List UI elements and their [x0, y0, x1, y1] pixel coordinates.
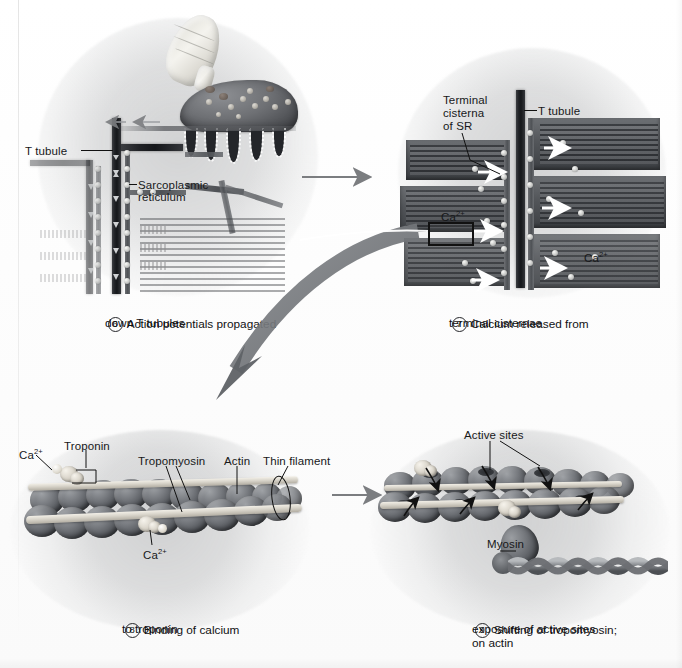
- label-calcium-left: Ca2+: [441, 209, 465, 224]
- label-active-sites: Active sites: [464, 428, 524, 442]
- caption-panel-7-line2: terminal cisternae: [449, 316, 542, 331]
- calcium-ion: [462, 260, 468, 266]
- page-edge-bottom: [0, 658, 682, 668]
- sarcoplasmic-reticulum-tube: [125, 152, 130, 294]
- junctional-fold: [274, 130, 284, 156]
- label-terminal-cisterna-line2: cisterna: [443, 106, 484, 120]
- sr-vesicle: [95, 230, 101, 236]
- calcium-ion: [527, 156, 533, 162]
- label-calcium-right: Ca2+: [584, 250, 608, 265]
- calcium-ion: [501, 198, 507, 204]
- caption-panel-6-line2: down T tubules: [105, 316, 185, 331]
- calcium-ion: [490, 240, 496, 246]
- synaptic-vesicle: [272, 104, 278, 110]
- sr-column-left: [504, 140, 510, 290]
- calcium-ion: [478, 186, 484, 192]
- thin-filament-zigzag: [140, 244, 166, 252]
- calcium-ion: [501, 174, 507, 180]
- sr-vesicle: [124, 150, 130, 156]
- label-terminal-cisterna-line1: Terminal: [443, 93, 487, 107]
- sr-vesicle: [95, 182, 101, 188]
- synaptic-vesicle: [219, 93, 228, 100]
- sr-vesicle: [124, 278, 130, 284]
- sr-vesicle: [124, 198, 130, 204]
- calcium-ion: [527, 130, 533, 136]
- sr-vesicle: [95, 214, 101, 220]
- label-sr-line2: reticulum: [138, 190, 186, 204]
- caption-panel-9-line3: on actin: [472, 636, 513, 651]
- troponin-complex-upper-b: [70, 472, 84, 485]
- synaptic-vesicle: [285, 99, 291, 105]
- leader-t-tubule-p6: [81, 150, 113, 151]
- label-calcium-top-p8: Ca2+: [19, 447, 43, 462]
- calcium-ion: [472, 166, 478, 172]
- calcium-ion: [501, 150, 507, 156]
- myosin-tail: [508, 556, 668, 576]
- active-site: [478, 468, 494, 476]
- sarcoplasmic-reticulum-branch: [185, 152, 223, 157]
- synaptic-vesicle: [236, 114, 241, 119]
- leader-t-tubule-p7: [524, 110, 537, 111]
- junctional-fold: [228, 130, 239, 162]
- troponin-complex-b: [508, 506, 521, 518]
- calcium-ion: [568, 274, 574, 280]
- t-tubule-branch: [121, 144, 183, 151]
- calcium-ion: [470, 278, 476, 284]
- synaptic-vesicle: [247, 88, 253, 94]
- synaptic-vesicle: [228, 104, 234, 110]
- label-myosin: Myosin: [487, 537, 524, 551]
- page-edge-right: [676, 0, 682, 668]
- synaptic-vesicle: [252, 103, 258, 109]
- cisterna-bands: [540, 182, 664, 224]
- thin-filament-zigzag: [140, 262, 166, 270]
- calcium-ion: [501, 222, 507, 228]
- active-site: [534, 469, 550, 477]
- thin-filament-zigzag: [40, 230, 88, 238]
- sr-vesicle: [95, 198, 101, 204]
- synaptic-vesicle: [266, 86, 274, 92]
- page-gutter-line: [18, 0, 19, 640]
- sarcoplasmic-reticulum-branch: [225, 185, 284, 208]
- calcium-ion-lower: [158, 524, 167, 533]
- synaptic-vesicle: [216, 112, 221, 117]
- label-calcium-bottom-p8: Ca2+: [143, 547, 167, 562]
- sr-vesicle: [124, 262, 130, 268]
- calcium-ion: [560, 140, 566, 146]
- calcium-ion: [546, 196, 552, 202]
- axon: [158, 8, 229, 93]
- label-thin-filament: Thin filament: [263, 454, 330, 468]
- calcium-ion: [501, 246, 507, 252]
- synaptic-vesicle: [240, 96, 246, 102]
- t-tubule-left-branch: [30, 160, 90, 166]
- calcium-ion: [484, 218, 490, 224]
- sr-vesicle: [95, 262, 101, 268]
- sr-vesicle: [124, 182, 130, 188]
- calcium-ion: [527, 182, 533, 188]
- t-tubule-center: [516, 90, 525, 288]
- sr-vesicle: [124, 214, 130, 220]
- sr-vesicle: [124, 246, 130, 252]
- troponin-complex-b: [424, 465, 437, 477]
- calcium-ion: [578, 210, 584, 216]
- figure-canvas: T tubule Sarcoplasmic reticulum 6Action …: [0, 0, 682, 668]
- cisterna-bands: [408, 242, 504, 282]
- leader-sr: [129, 184, 137, 185]
- sr-vesicle: [124, 230, 130, 236]
- sr-vesicle: [95, 278, 101, 284]
- calcium-ion: [501, 270, 507, 276]
- synaptic-vesicle: [206, 99, 212, 105]
- label-terminal-cisterna-line3: of SR: [443, 119, 472, 133]
- synaptic-vesicle: [205, 86, 215, 93]
- caption-panel-9-line2: exposure of active sites: [472, 622, 595, 637]
- junctional-fold: [251, 130, 262, 160]
- calcium-ion: [572, 166, 578, 172]
- calcium-ion-upper: [52, 464, 62, 474]
- calcium-ion: [552, 250, 558, 256]
- label-t-tubule-p7: T tubule: [538, 104, 580, 118]
- cisterna-bands: [410, 145, 506, 175]
- myosin-tail-svg: [508, 556, 668, 576]
- sr-vesicle: [95, 246, 101, 252]
- caption-panel-8-line2: to troponin: [122, 622, 178, 637]
- label-tropomyosin: Tropomyosin: [138, 454, 205, 468]
- thin-filament-zigzag: [140, 226, 166, 234]
